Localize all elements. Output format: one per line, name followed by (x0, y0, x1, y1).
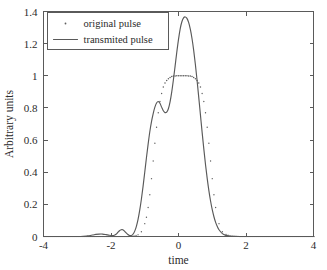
data-point (94, 236, 95, 237)
data-point (90, 236, 91, 237)
data-point (126, 236, 127, 237)
data-point (212, 178, 213, 179)
data-point (154, 143, 155, 144)
y-axis-title: Arbitrary units (3, 89, 16, 158)
data-point (158, 112, 159, 113)
y-tick-label: 0 (32, 231, 38, 243)
data-point (171, 76, 173, 78)
data-point (134, 235, 135, 236)
data-point (191, 76, 193, 78)
data-point (102, 236, 103, 237)
data-point (128, 236, 129, 237)
data-point (122, 236, 123, 237)
data-point (112, 236, 113, 237)
data-point (100, 236, 101, 237)
data-point (161, 93, 162, 94)
y-tick-label: 0.2 (24, 198, 38, 210)
x-axis-title: time (168, 254, 188, 266)
data-point (124, 236, 125, 237)
y-tick-label: 1.4 (24, 6, 38, 18)
figure-container: -4-202400.20.40.60.811.21.4 timeArbitrar… (0, 0, 327, 270)
y-tick-label: 1.2 (24, 38, 38, 50)
data-point (114, 236, 115, 237)
data-point (169, 77, 171, 79)
data-point (168, 78, 170, 80)
data-point (110, 236, 111, 237)
chart-legend: original pulsetransmited pulse (48, 13, 169, 50)
data-point (151, 178, 152, 179)
data-point (120, 236, 121, 237)
data-point (198, 82, 200, 84)
data-point (163, 86, 165, 88)
data-point (149, 194, 150, 195)
data-point (183, 75, 185, 77)
data-point (205, 112, 206, 113)
data-point (104, 236, 105, 237)
x-tick-label: 0 (176, 239, 182, 251)
data-point (106, 236, 107, 237)
data-point (146, 217, 147, 218)
data-point (210, 160, 211, 161)
data-point (215, 207, 216, 208)
x-tick-label: -2 (106, 239, 115, 251)
data-point (116, 236, 117, 237)
x-tick-label: -4 (39, 239, 49, 251)
data-point (181, 75, 183, 77)
data-point (176, 75, 178, 77)
data-point (190, 75, 192, 77)
data-point (213, 194, 214, 195)
data-point (201, 93, 202, 94)
data-point (141, 231, 142, 232)
data-point (166, 80, 168, 82)
data-point (92, 236, 93, 237)
y-tick-label: 1 (32, 70, 38, 82)
data-point (144, 223, 145, 224)
data-point (193, 77, 195, 79)
chart-svg: -4-202400.20.40.60.811.21.4 timeArbitrar… (0, 0, 327, 270)
data-point (178, 75, 180, 77)
data-point (218, 223, 219, 224)
y-tick-label: 0.8 (24, 102, 38, 114)
data-point (222, 231, 223, 232)
data-point (203, 101, 204, 102)
data-point (200, 86, 202, 88)
data-point (185, 75, 187, 77)
y-tick-label: 0.6 (24, 134, 38, 146)
data-point (136, 235, 137, 236)
data-point (96, 236, 97, 237)
data-point (188, 75, 190, 77)
legend-label: transmited pulse (84, 34, 153, 45)
data-point (98, 236, 99, 237)
data-point (118, 236, 119, 237)
data-point (208, 143, 209, 144)
series-original-pulse (44, 75, 315, 237)
x-tick-label: 2 (243, 239, 249, 251)
data-point (147, 207, 148, 208)
data-point (195, 78, 197, 80)
legend-label: original pulse (84, 18, 142, 29)
y-tick-label: 0.4 (24, 166, 38, 178)
x-tick-label: 4 (311, 239, 317, 251)
data-point (138, 234, 139, 235)
data-point (156, 127, 157, 128)
data-point (152, 160, 153, 161)
data-point (186, 75, 188, 77)
data-point (206, 127, 207, 128)
data-point (108, 236, 109, 237)
data-point (174, 75, 176, 77)
data-point (164, 82, 166, 84)
data-point (179, 75, 181, 77)
legend-marker-dot-icon (65, 23, 67, 25)
